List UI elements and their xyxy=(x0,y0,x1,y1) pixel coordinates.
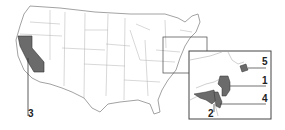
callout-label-1: 1 xyxy=(262,76,268,86)
us-map xyxy=(0,0,285,130)
callout-label-4: 4 xyxy=(262,94,268,104)
callout-label-3: 3 xyxy=(28,109,34,119)
callout-label-5: 5 xyxy=(262,57,268,67)
callout-label-2: 2 xyxy=(208,109,214,119)
